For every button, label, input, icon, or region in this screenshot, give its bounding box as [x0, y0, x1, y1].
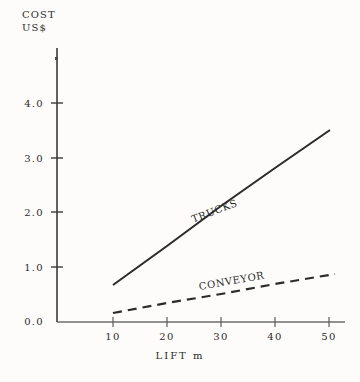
x-tick-label-1: 20: [150, 331, 184, 342]
y-axis-title-line2: US$: [22, 22, 47, 33]
x-axis-title: LIFT m: [0, 349, 360, 362]
y-tick-label-3: 3.0: [0, 153, 44, 164]
x-tick-label-4: 50: [312, 331, 346, 342]
x-tick-label-0: 10: [96, 331, 130, 342]
chart-figure: COSTUS$ 4.0 3.0 2.0 1.0 0.0 10 20 30 40 …: [0, 0, 360, 382]
y-tick-label-2: 2.0: [0, 207, 44, 218]
y-axis-title-line1: COST: [22, 9, 56, 20]
y-tick-label-4: 4.0: [0, 98, 44, 109]
x-tick-label-2: 30: [204, 331, 238, 342]
x-tick-label-3: 40: [258, 331, 292, 342]
y-tick-label-1: 1.0: [0, 262, 44, 273]
y-tick-label-0: 0.0: [0, 316, 44, 327]
y-axis-title: COSTUS$: [22, 8, 56, 34]
plot-area: [0, 0, 360, 382]
y-axis-top-mark: [55, 57, 58, 60]
